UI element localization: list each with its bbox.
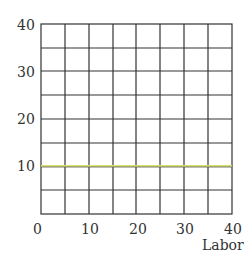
- x-tick-10: 10: [81, 221, 99, 237]
- y-tick-30: 30: [17, 64, 35, 80]
- y-tick-10: 10: [17, 158, 35, 174]
- grid: [41, 24, 232, 214]
- chart: 40 30 20 10 0 10 20 30 40 Labor: [0, 0, 249, 262]
- x-tick-30: 30: [176, 221, 194, 237]
- y-tick-20: 20: [17, 111, 35, 127]
- x-tick-40: 40: [224, 221, 242, 237]
- x-axis-label: Labor: [202, 237, 244, 253]
- y-tick-40: 40: [17, 17, 35, 33]
- x-tick-20: 20: [129, 221, 147, 237]
- x-tick-0: 0: [33, 221, 42, 237]
